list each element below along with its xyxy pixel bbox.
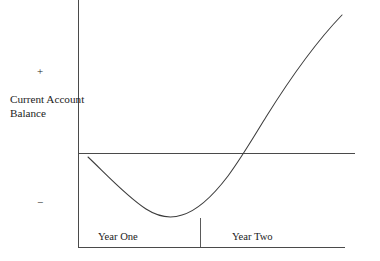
j-curve-plot	[0, 0, 380, 261]
positive-sign-label: +	[37, 64, 43, 78]
y-axis-title-line-2: Balance	[10, 106, 76, 120]
y-axis-title-line-1: Current Account	[10, 92, 76, 106]
negative-sign-label: −	[37, 195, 43, 209]
y-axis-title: Current Account Balance	[10, 92, 76, 121]
x-tick-label-year-two: Year Two	[232, 230, 273, 244]
chart-canvas: + Current Account Balance − Year One Yea…	[0, 0, 380, 261]
j-curve-path	[88, 15, 342, 217]
x-tick-label-year-one: Year One	[98, 230, 138, 244]
